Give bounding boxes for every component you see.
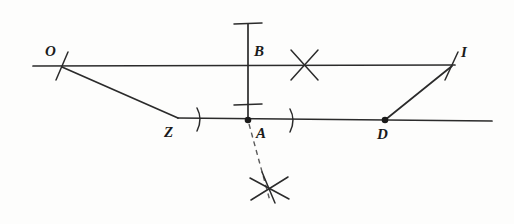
- arc-mark-left-of-a-icon: [197, 108, 200, 131]
- tick-mark-at-i: [445, 52, 458, 80]
- point-label-b: B: [253, 43, 264, 59]
- point-a-dot: [245, 117, 252, 124]
- arc-mark-right-of-a-icon: [290, 109, 293, 132]
- upper-horizontal-line: [33, 65, 455, 66]
- point-d-dot: [382, 117, 389, 124]
- point-label-z: Z: [163, 124, 173, 140]
- segment-d-to-i: [385, 66, 452, 120]
- lower-horizontal-line: [178, 118, 492, 121]
- tick-above-a-icon: [234, 104, 262, 105]
- diagram-canvas: O B I Z A D: [0, 0, 514, 224]
- segment-o-to-z: [62, 67, 178, 118]
- arc-intersection-lower-icon: [250, 172, 289, 203]
- tick-top-of-vertical-icon: [234, 23, 262, 24]
- point-label-d: D: [376, 126, 388, 142]
- point-label-i: I: [460, 44, 468, 60]
- point-label-a: A: [255, 125, 266, 141]
- geometry-diagram: O B I Z A D: [0, 0, 514, 224]
- point-label-o: O: [45, 43, 56, 59]
